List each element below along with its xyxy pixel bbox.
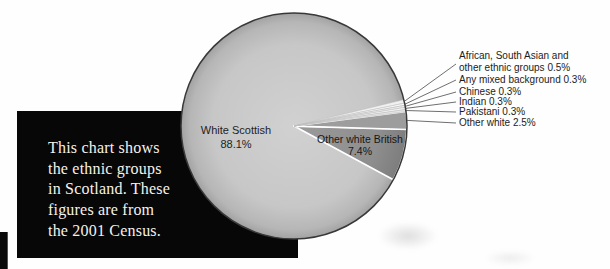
callout-label-any-mixed-background: Any mixed background 0.3% xyxy=(459,74,586,86)
pie-chart xyxy=(0,0,610,269)
leader-line-chinese xyxy=(405,92,456,106)
leader-line-indian xyxy=(406,102,456,108)
leader-line-layer xyxy=(404,64,456,123)
callout-label-african-south-asian: African, South Asian and other ethnic gr… xyxy=(459,50,570,74)
white-scottish-slice-label: White Scottish 88.1% xyxy=(201,124,271,151)
page: This chart shows the ethnic groups in Sc… xyxy=(0,0,610,269)
leader-line-pakistani xyxy=(406,111,456,113)
leader-line-any-mixed-background xyxy=(405,80,456,104)
leader-line-other-white xyxy=(407,120,456,123)
leader-line-african-south-asian-and-other-ethnic-groups xyxy=(404,64,456,101)
other-white-british-slice-label: Other white British 7.4% xyxy=(317,134,403,157)
callout-label-other-white: Other white 2.5% xyxy=(459,117,536,129)
